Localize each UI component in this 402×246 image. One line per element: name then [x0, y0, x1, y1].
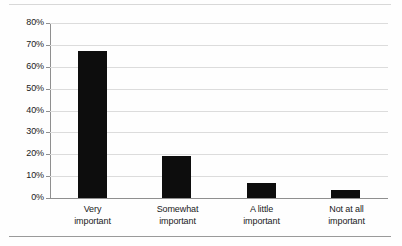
y-axis-tick-label: 60% [4, 62, 44, 71]
x-axis-tick-label: Somewhatimportant [135, 204, 220, 227]
y-axis-tick-label: 70% [4, 40, 44, 49]
x-axis-tick-label: A littleimportant [219, 204, 304, 227]
x-axis-tick-label-line: important [304, 216, 389, 228]
x-axis-tick-label-line: important [135, 216, 220, 228]
bar [331, 190, 360, 198]
y-axis-tick-label: 30% [4, 127, 44, 136]
x-axis-tick-label: Veryimportant [50, 204, 135, 227]
bar [162, 156, 191, 198]
y-axis-tick-label: 40% [4, 106, 44, 115]
x-axis-baseline [50, 198, 388, 199]
page-background: 0%10%20%30%40%50%60%70%80% Veryimportant… [0, 0, 402, 246]
bar [78, 51, 107, 198]
y-axis-tick-label: 80% [4, 18, 44, 27]
plot-area [50, 23, 388, 198]
y-axis-tick-label: 0% [4, 193, 44, 202]
x-axis-tick-label-line: important [50, 216, 135, 228]
x-axis-tick-label-line: A little [219, 204, 304, 216]
x-axis-tick-label-line: Not at all [304, 204, 389, 216]
x-axis-tick-label-line: important [219, 216, 304, 228]
y-axis-tick [46, 198, 50, 199]
x-axis-tick-label-line: Somewhat [135, 204, 220, 216]
y-axis-tick-label: 50% [4, 84, 44, 93]
x-axis-tick-label: Not at allimportant [304, 204, 389, 227]
bar-chart: 0%10%20%30%40%50%60%70%80% Veryimportant… [0, 0, 402, 246]
x-axis-tick-label-line: Very [50, 204, 135, 216]
y-axis-tick-label: 20% [4, 149, 44, 158]
y-axis-tick-label: 10% [4, 171, 44, 180]
bar [247, 183, 276, 198]
